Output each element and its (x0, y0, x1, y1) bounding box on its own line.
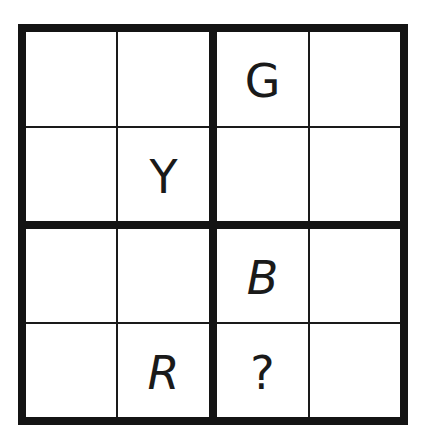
cell-r1-c0[interactable] (26, 128, 116, 221)
cell-r2-c0[interactable] (26, 229, 116, 322)
cell-r3-c3[interactable] (310, 324, 400, 417)
cell-r3-c2-question[interactable]: ? (217, 324, 308, 417)
cell-r2-c3[interactable] (310, 229, 400, 322)
cell-r2-c2[interactable]: B (217, 229, 308, 322)
cell-r2-c1[interactable] (118, 229, 209, 322)
cell-r0-c3[interactable] (310, 32, 400, 126)
puzzle-grid: G Y B R ? (18, 24, 408, 425)
cell-r3-c0[interactable] (26, 324, 116, 417)
cell-r1-c1[interactable]: Y (118, 128, 209, 221)
thick-hline-center (26, 221, 400, 229)
cell-r0-c2[interactable]: G (217, 32, 308, 126)
cell-r1-c3[interactable] (310, 128, 400, 221)
cell-r3-c1[interactable]: R (118, 324, 209, 417)
cell-r0-c1[interactable] (118, 32, 209, 126)
cell-r0-c0[interactable] (26, 32, 116, 126)
cell-r1-c2[interactable] (217, 128, 308, 221)
